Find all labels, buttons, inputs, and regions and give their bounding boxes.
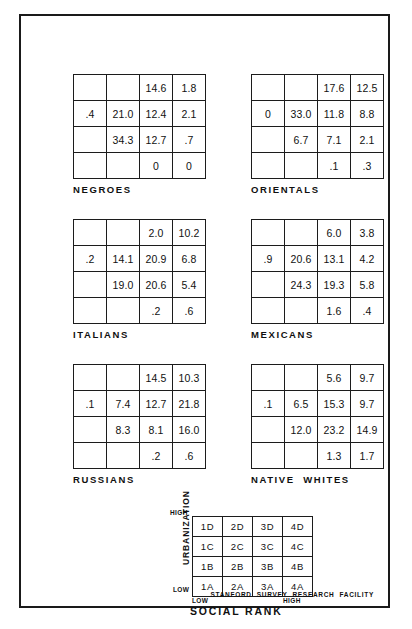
grid-cell: [74, 298, 107, 324]
grid-cell: [285, 75, 318, 101]
grid-cell: [285, 365, 318, 391]
grid-cell: 7.4: [107, 391, 140, 417]
y-axis-low-tick: LOW: [173, 586, 189, 593]
grid-cell: 10.2: [173, 220, 206, 246]
grid-cell: 0: [140, 153, 173, 179]
grid-cell: 2.1: [351, 127, 384, 153]
grid-cell: 14.1: [107, 246, 140, 272]
legend-cell: 4C: [283, 537, 313, 557]
grid-row: 6.03.8: [252, 220, 384, 246]
grid-cell: [74, 443, 107, 469]
legend-cell: 2C: [223, 537, 253, 557]
legend-cell: 3B: [253, 557, 283, 577]
grid-cell: [107, 220, 140, 246]
panel-negroes: 14.61.8.421.012.42.134.312.7.700 NEGROES: [73, 74, 206, 195]
grid-cell: 12.5: [351, 75, 384, 101]
grid-row: 14.510.3: [74, 365, 206, 391]
grid-row: 8.38.116.0: [74, 417, 206, 443]
grid-row: 14.61.8: [74, 75, 206, 101]
figure-frame: 14.61.8.421.012.42.134.312.7.700 NEGROES…: [19, 14, 390, 608]
grid-row: .2.6: [74, 443, 206, 469]
panel-mexicans: 6.03.8.920.613.14.224.319.35.81.6.4 MEXI…: [251, 219, 384, 340]
grid-cell: 14.6: [140, 75, 173, 101]
grid-cell: [107, 298, 140, 324]
grid-cell: 4.2: [351, 246, 384, 272]
grid-row: 12.023.214.9: [252, 417, 384, 443]
grid-cell: [74, 272, 107, 298]
grid-row: 2.010.2: [74, 220, 206, 246]
grid-row: 033.011.88.8: [252, 101, 384, 127]
grid-cell: 1.3: [318, 443, 351, 469]
grid-cell: .6: [173, 443, 206, 469]
grid-cell: 12.4: [140, 101, 173, 127]
grid-row: .421.012.42.1: [74, 101, 206, 127]
grid-cell: [74, 75, 107, 101]
x-axis-low-tick: LOW: [192, 597, 208, 604]
grid-cell: 0: [252, 101, 285, 127]
panel-label: NEGROES: [73, 184, 206, 195]
legend-grid-body: 1D2D3D4D1C2C3C4C1B2B3B4B1A2A3A4A: [193, 517, 313, 597]
y-axis-label: URBANIZATION: [181, 493, 191, 565]
grid-cell: [285, 298, 318, 324]
legend-cell: 2B: [223, 557, 253, 577]
grid-cell: 15.3: [318, 391, 351, 417]
grid-row: 24.319.35.8: [252, 272, 384, 298]
grid-row: 5.69.7: [252, 365, 384, 391]
grid-cell: [252, 298, 285, 324]
grid-body: 2.010.2.214.120.96.819.020.65.4.2.6: [74, 220, 206, 324]
grid-cell: 20.6: [285, 246, 318, 272]
grid-cell: 23.2: [318, 417, 351, 443]
grid-cell: .3: [351, 153, 384, 179]
grid-cell: 20.6: [140, 272, 173, 298]
grid-cell: 14.9: [351, 417, 384, 443]
grid-cell: 9.7: [351, 365, 384, 391]
grid-row: .17.412.721.8: [74, 391, 206, 417]
grid-row: 6.77.12.1: [252, 127, 384, 153]
grid-row: 00: [74, 153, 206, 179]
data-grid: 2.010.2.214.120.96.819.020.65.4.2.6: [73, 219, 206, 324]
grid-cell: 10.3: [173, 365, 206, 391]
grid-cell: 2.0: [140, 220, 173, 246]
grid-body: 14.510.3.17.412.721.88.38.116.0.2.6: [74, 365, 206, 469]
grid-cell: [252, 365, 285, 391]
grid-cell: 6.0: [318, 220, 351, 246]
grid-cell: 2.1: [173, 101, 206, 127]
grid-row: .1.3: [252, 153, 384, 179]
grid-cell: 33.0: [285, 101, 318, 127]
panel-orientals: 17.612.5033.011.88.86.77.12.1.1.3 ORIENT…: [251, 74, 384, 195]
data-grid: 17.612.5033.011.88.86.77.12.1.1.3: [251, 74, 384, 179]
legend-cell: 3C: [253, 537, 283, 557]
grid-cell: 5.4: [173, 272, 206, 298]
grid-cell: 8.1: [140, 417, 173, 443]
grid-cell: [74, 127, 107, 153]
grid-cell: .6: [173, 298, 206, 324]
grid-cell: 12.7: [140, 127, 173, 153]
panel-italians: 2.010.2.214.120.96.819.020.65.4.2.6 ITAL…: [73, 219, 206, 340]
grid-cell: .2: [74, 246, 107, 272]
footer-credit: STANFORD SURVEY RESEARCH FACILITY: [210, 591, 374, 598]
panel-russians: 14.510.3.17.412.721.88.38.116.0.2.6 RUSS…: [73, 364, 206, 485]
grid-cell: 1.8: [173, 75, 206, 101]
grid-row: .214.120.96.8: [74, 246, 206, 272]
panel-native-whites: 5.69.7.16.515.39.712.023.214.91.31.7 NAT…: [251, 364, 384, 485]
grid-cell: 16.0: [173, 417, 206, 443]
data-grid: 5.69.7.16.515.39.712.023.214.91.31.7: [251, 364, 384, 469]
grid-row: 19.020.65.4: [74, 272, 206, 298]
grid-cell: .1: [318, 153, 351, 179]
grid-cell: .2: [140, 298, 173, 324]
grid-cell: [252, 127, 285, 153]
grid-row: 1.31.7: [252, 443, 384, 469]
grid-cell: [107, 443, 140, 469]
grid-cell: 5.6: [318, 365, 351, 391]
grid-cell: [252, 220, 285, 246]
legend-cell: 4B: [283, 557, 313, 577]
legend-cell: 4D: [283, 517, 313, 537]
grid-cell: 21.8: [173, 391, 206, 417]
grid-cell: .7: [173, 127, 206, 153]
grid-cell: [252, 272, 285, 298]
grid-cell: 21.0: [107, 101, 140, 127]
legend-grid: 1D2D3D4D1C2C3C4C1B2B3B4B1A2A3A4A: [192, 516, 313, 597]
legend-cell: 1C: [193, 537, 223, 557]
data-grid: 14.510.3.17.412.721.88.38.116.0.2.6: [73, 364, 206, 469]
grid-cell: [285, 153, 318, 179]
